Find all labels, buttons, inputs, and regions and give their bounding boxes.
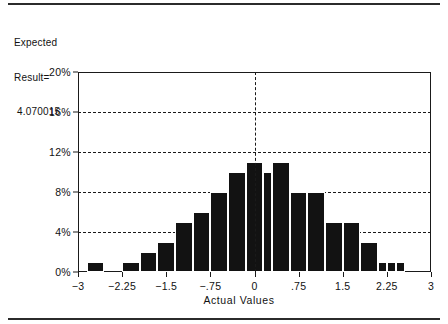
histogram-bar [140,252,158,272]
y-tick-label: 20% [49,66,71,78]
histogram-bar [396,262,405,272]
y-tick-label: 8% [55,186,71,198]
x-tick-label: 1.5 [335,280,351,292]
annotation-line-1: Expected [14,37,60,49]
histogram-bar [193,212,211,272]
top-divider-rule [8,3,440,5]
y-tick-label: 12% [49,146,71,158]
x-tick-mark [431,272,432,277]
histogram-bar [378,262,387,272]
y-tick-label: 16% [49,106,71,118]
x-tick-mark [343,272,344,277]
y-tick-label: 0% [55,266,71,278]
histogram-bar [263,172,272,272]
x-tick-mark [210,272,211,277]
x-tick-label: 0 [251,280,257,292]
x-tick-mark [78,272,79,277]
histogram-bar [387,262,396,272]
histogram-bar [87,262,105,272]
histogram-chart: 0%4%8%12%16%20% −3−2.25−1.5−.750.751.52.… [78,72,431,272]
histogram-bar [210,192,228,272]
y-tick-mark [73,112,78,113]
histogram-bar [343,222,361,272]
zero-reference-line [255,72,256,272]
histogram-bar [122,262,140,272]
histogram-bar [360,242,378,272]
histogram-bar [272,162,290,272]
x-axis-title: Actual Values [0,294,448,306]
x-tick-mark [387,272,388,277]
x-tick-mark [255,272,256,277]
y-tick-mark [73,192,78,193]
histogram-bar [175,222,193,272]
x-tick-label: −1.5 [155,280,177,292]
y-tick-mark [73,72,78,73]
x-tick-label: −.75 [199,280,221,292]
x-tick-mark [122,272,123,277]
y-tick-label: 4% [55,226,71,238]
x-tick-label: −3 [72,280,85,292]
y-tick-mark [73,152,78,153]
x-tick-label: 3 [428,280,434,292]
histogram-bar [307,192,325,272]
histogram-bar [228,172,246,272]
histogram-bar [157,242,175,272]
bottom-divider-rule [8,318,440,320]
y-tick-mark [73,232,78,233]
x-tick-mark [299,272,300,277]
histogram-bar [325,222,343,272]
histogram-bar [290,192,308,272]
x-tick-label: −2.25 [108,280,136,292]
x-tick-mark [166,272,167,277]
x-tick-label: .75 [291,280,307,292]
x-tick-label: 2.25 [376,280,398,292]
